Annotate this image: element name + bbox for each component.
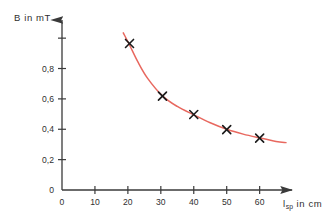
x-tick-label: 20 bbox=[123, 197, 133, 207]
fit-curve bbox=[123, 33, 286, 143]
x-tick-label: 50 bbox=[222, 197, 232, 207]
x-axis-title-unit: in cm bbox=[293, 198, 322, 209]
x-tick-label: 0 bbox=[60, 197, 65, 207]
data-point-marker bbox=[158, 92, 166, 100]
y-tick-label: 0,4 bbox=[42, 124, 54, 134]
chart-figure: B in mT lsp in cm 00,20,40,60,8 01020304… bbox=[0, 0, 325, 222]
y-tick-label: 0,6 bbox=[42, 94, 54, 104]
x-tick-label: 30 bbox=[156, 197, 166, 207]
data-point-markers bbox=[126, 39, 264, 142]
y-axis-title: B in mT bbox=[14, 12, 51, 23]
x-axis-title: lsp in cm bbox=[283, 198, 322, 210]
y-tick-label: 0 bbox=[49, 185, 54, 195]
x-tick-label: 60 bbox=[255, 197, 265, 207]
y-tick-label: 0,8 bbox=[42, 64, 54, 74]
x-tick-label: 40 bbox=[189, 197, 199, 207]
x-tick-label: 10 bbox=[90, 197, 100, 207]
y-tick-label: 0,2 bbox=[42, 155, 54, 165]
axes bbox=[62, 20, 292, 190]
data-point-marker bbox=[190, 111, 198, 119]
